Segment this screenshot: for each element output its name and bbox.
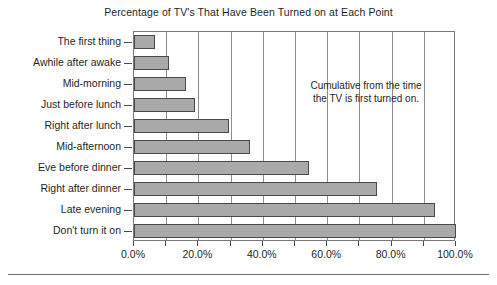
x-axis-label: 60.0%	[311, 248, 341, 260]
y-axis-tick	[124, 42, 132, 43]
y-axis-label: Mid-morning	[63, 73, 121, 94]
x-axis-label: 20.0%	[183, 248, 213, 260]
x-axis-tick	[294, 241, 295, 246]
bar-row	[134, 200, 454, 221]
x-axis-tick	[423, 241, 424, 246]
x-axis-tick	[358, 241, 359, 246]
y-axis-label: Right after lunch	[45, 115, 121, 136]
x-axis-tick	[391, 241, 392, 246]
bar-row	[134, 74, 454, 95]
bar-row	[134, 221, 454, 242]
y-axis-tick	[124, 189, 132, 190]
bar-row	[134, 32, 454, 53]
y-axis-tick	[124, 147, 132, 148]
y-axis-label: Eve before dinner	[38, 157, 121, 178]
bar-row	[134, 95, 454, 116]
x-axis-label: 40.0%	[247, 248, 277, 260]
x-axis-tick	[197, 241, 198, 246]
bar[interactable]	[134, 224, 456, 238]
x-axis-tick	[326, 241, 327, 246]
y-axis-tick	[124, 63, 132, 64]
y-axis-label: Right after dinner	[40, 178, 121, 199]
bar[interactable]	[134, 203, 435, 217]
y-axis-label: Mid-afternoon	[56, 136, 121, 157]
bar[interactable]	[134, 56, 169, 70]
y-axis-label: Awhile after awake	[33, 52, 121, 73]
y-axis-tick	[124, 231, 132, 232]
y-axis-label: The first thing	[57, 31, 121, 52]
y-axis-tick	[124, 210, 132, 211]
bar-row	[134, 137, 454, 158]
y-axis-label: Don't turn it on	[53, 220, 121, 241]
x-axis-labels: 0.0%20.0%40.0%60.0%80.0%100.0%	[0, 248, 497, 262]
bar-row	[134, 179, 454, 200]
y-axis-label: Just before lunch	[41, 94, 121, 115]
x-axis-tick	[230, 241, 231, 246]
y-axis-tick	[124, 126, 132, 127]
x-axis-tick	[455, 241, 456, 246]
y-axis-tick	[124, 168, 132, 169]
chart-title: Percentage of TV's That Have Been Turned…	[0, 6, 497, 18]
y-axis: The first thingAwhile after awakeMid-mor…	[0, 31, 133, 241]
bar[interactable]	[134, 140, 250, 154]
y-axis-label: Late evening	[61, 199, 121, 220]
x-axis-tick	[262, 241, 263, 246]
bar[interactable]	[134, 119, 229, 133]
bar[interactable]	[134, 98, 195, 112]
x-axis-ticks	[133, 241, 455, 247]
bar[interactable]	[134, 161, 309, 175]
x-axis-tick	[165, 241, 166, 246]
x-axis-tick	[133, 241, 134, 246]
y-axis-tick	[124, 84, 132, 85]
x-axis-label: 80.0%	[376, 248, 406, 260]
bar-row	[134, 158, 454, 179]
y-axis-tick	[124, 105, 132, 106]
plot-area: Cumulative from the timethe TV is first …	[133, 31, 455, 241]
bars-layer	[134, 32, 454, 240]
bar[interactable]	[134, 35, 155, 49]
bar[interactable]	[134, 77, 186, 91]
bar[interactable]	[134, 182, 377, 196]
bar-row	[134, 53, 454, 74]
bottom-divider	[8, 274, 489, 275]
x-axis-label: 0.0%	[121, 248, 145, 260]
x-axis-label: 100.0%	[437, 248, 473, 260]
bar-row	[134, 116, 454, 137]
